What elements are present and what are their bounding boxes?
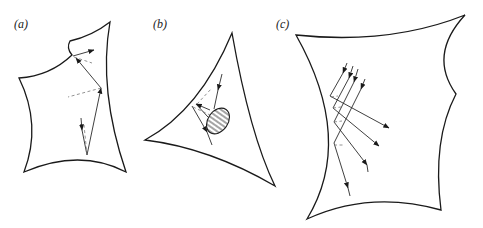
- panel-b: [145, 33, 275, 186]
- diagram-canvas: [0, 0, 483, 228]
- panel-a-normal-right: [68, 88, 101, 97]
- panel-c-reflected-beam: [330, 96, 389, 196]
- panel-b-ray-tail: [207, 132, 212, 145]
- panel-a-ray-up: [87, 88, 101, 155]
- panel-a-ray-incoming: [81, 118, 82, 130]
- panel-a: [19, 22, 126, 172]
- panel-b-boundary: [145, 33, 275, 186]
- panel-b-normal-2: [193, 107, 210, 115]
- panel-c-boundary: [296, 15, 465, 219]
- panel-a-normal-notch: [74, 57, 92, 63]
- panel-c: [296, 15, 465, 219]
- panel-b-ray-wall: [196, 104, 208, 117]
- panel-c-incident-beam: [330, 63, 365, 143]
- diagram-figure: (a) (b) (c): [0, 0, 483, 228]
- panel-b-normal-1: [197, 88, 212, 104]
- panel-b-ray-in: [218, 74, 222, 90]
- panel-a-ray-reflect: [76, 58, 101, 88]
- panel-a-boundary: [19, 22, 126, 172]
- panel-b-ray-to-scatterer: [214, 90, 218, 109]
- panel-a-ray-segment: [82, 130, 87, 155]
- panel-a-ray-out: [73, 50, 94, 56]
